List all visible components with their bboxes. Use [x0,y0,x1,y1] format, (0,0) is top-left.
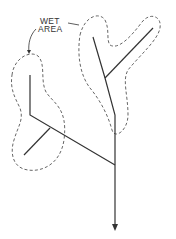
wet-area-outline-left [11,54,64,170]
drain-branch-right [105,28,153,78]
label-leader-right [68,23,79,25]
drainage-diagram: WET AREA [0,0,176,239]
drain-branch-left-sub [24,128,50,155]
label-arrow-left-icon [27,50,31,54]
wet-label-line2: AREA [38,24,62,34]
outlet-arrow-icon [112,224,118,231]
label-leader-left [29,29,36,52]
drain-branch-left [30,75,115,165]
drain-main [93,37,115,165]
